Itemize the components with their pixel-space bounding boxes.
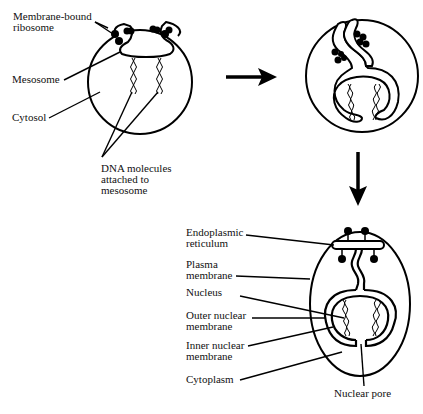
label-nuclear-pore: Nuclear pore — [334, 387, 391, 399]
label-inner-nuclear-membrane: Inner nuclear membrane — [186, 339, 247, 362]
label-cytoplasm: Cytoplasm — [186, 373, 234, 385]
label-membrane-bound-ribosome: Membrane-bound ribosome — [13, 10, 95, 33]
intermediate-cell — [306, 19, 418, 132]
leader-cytoplasm — [240, 352, 342, 380]
eukaryote-cell: Endoplasmic reticulum Plasma membrane Nu… — [186, 226, 410, 399]
prokaryote-cell: Membrane-bound ribosome Mesosome Cytosol… — [12, 10, 192, 196]
label-outer-nuclear-membrane: Outer nuclear membrane — [186, 309, 249, 332]
label-mesosome: Mesosome — [12, 73, 60, 85]
arrow-down-icon — [349, 152, 367, 206]
label-dna-molecules: DNA molecules attached to mesosome — [101, 162, 174, 196]
label-plasma-membrane: Plasma membrane — [186, 258, 233, 281]
label-cytosol: Cytosol — [12, 111, 46, 123]
leader-plasma-membrane — [236, 276, 310, 279]
label-endoplasmic-reticulum: Endoplasmic reticulum — [186, 226, 246, 249]
arrow-right-icon — [226, 68, 277, 86]
cell-evolution-diagram: Membrane-bound ribosome Mesosome Cytosol… — [0, 0, 423, 414]
leader-er — [246, 235, 334, 245]
label-nucleus: Nucleus — [186, 286, 222, 298]
er-bar — [332, 241, 384, 249]
